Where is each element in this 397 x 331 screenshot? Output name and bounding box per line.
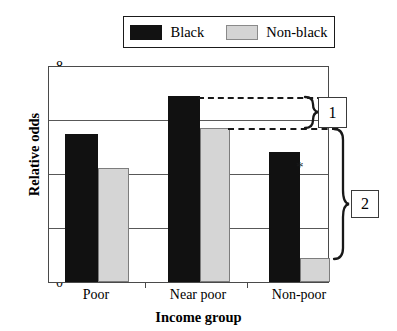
x-tick-label-poor: Poor — [41, 288, 151, 302]
brace-1-path — [305, 97, 318, 128]
callout-box-2: 2 — [351, 190, 379, 218]
chart-figure: Black Non-black 8 6 4 2 0 Relative odds — [0, 0, 397, 331]
significance-asterisk: * — [296, 160, 304, 175]
brace-group — [0, 0, 397, 331]
x-axis-title: Income group — [0, 309, 397, 326]
x-tick-label-non-poor: Non-poor — [244, 288, 354, 302]
x-tick-label-near-poor: Near poor — [143, 288, 253, 302]
brace-2-path — [334, 129, 349, 259]
callout-box-1: 1 — [318, 97, 347, 128]
